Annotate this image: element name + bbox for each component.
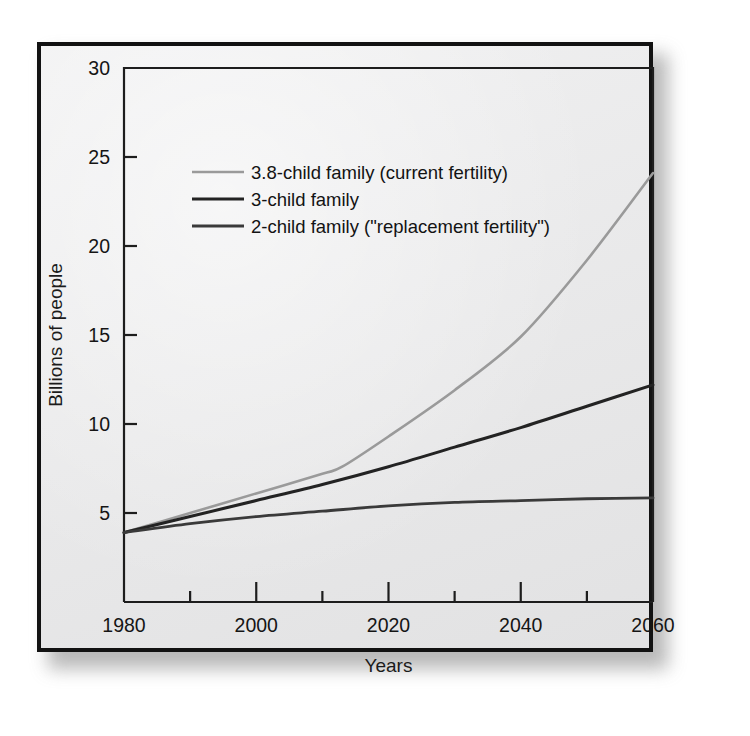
x-tick-label: 2040 bbox=[499, 614, 543, 636]
legend-label-3: 2-child family ("replacement fertility") bbox=[251, 216, 550, 237]
y-tick-label: 15 bbox=[88, 324, 110, 346]
series-line-3 bbox=[124, 498, 653, 533]
labels-layer: 5101520253019802000202020402060YearsBill… bbox=[45, 57, 675, 676]
y-tick-label: 5 bbox=[99, 502, 110, 524]
y-tick-label: 25 bbox=[88, 146, 110, 168]
x-tick-label: 2060 bbox=[631, 614, 675, 636]
x-tick-label: 2000 bbox=[235, 614, 279, 636]
y-tick-label: 20 bbox=[88, 235, 110, 257]
x-tick-label: 2020 bbox=[367, 614, 411, 636]
y-axis-title: Billions of people bbox=[45, 263, 66, 407]
legend-label-2: 3-child family bbox=[251, 189, 360, 210]
x-axis-title: Years bbox=[365, 655, 413, 676]
y-tick-label: 10 bbox=[88, 413, 110, 435]
legend-label-1: 3.8-child family (current fertility) bbox=[251, 162, 508, 183]
legend-layer: 3.8-child family (current fertility)3-ch… bbox=[192, 162, 550, 237]
y-tick-label: 30 bbox=[88, 57, 110, 79]
figure-page: 5101520253019802000202020402060YearsBill… bbox=[0, 0, 750, 736]
line-chart: 5101520253019802000202020402060YearsBill… bbox=[0, 0, 750, 736]
x-tick-label: 1980 bbox=[102, 614, 146, 636]
